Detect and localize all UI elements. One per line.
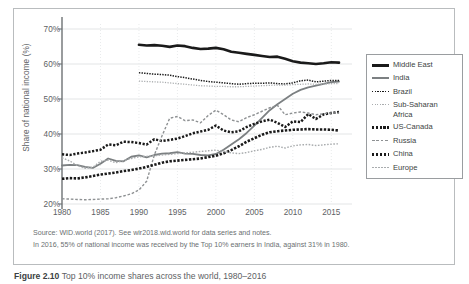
legend-label: Brazil bbox=[393, 87, 412, 96]
legend-swatch-icon bbox=[372, 60, 389, 70]
series-line bbox=[62, 82, 339, 168]
series-line bbox=[139, 45, 339, 64]
series-line bbox=[62, 105, 339, 200]
gridlines bbox=[62, 24, 352, 204]
x-tick-label: 1990 bbox=[119, 208, 159, 217]
legend-label: Sub-Saharan Africa bbox=[393, 100, 458, 119]
x-axis-tick-labels: 19801985199019952000200520102015 bbox=[14, 208, 456, 224]
x-tick-label: 2005 bbox=[234, 208, 274, 217]
legend-label: China bbox=[393, 149, 413, 158]
x-tick-label: 2010 bbox=[273, 208, 313, 217]
source-note: Source: WID.world (2017). See wir2018.wi… bbox=[33, 227, 433, 239]
x-tick-label: 1980 bbox=[42, 208, 82, 217]
legend-swatch-icon bbox=[372, 73, 389, 83]
legend-swatch-icon bbox=[372, 87, 389, 97]
legend-label: India bbox=[393, 73, 409, 82]
data-series-group bbox=[62, 45, 339, 200]
series-line bbox=[139, 81, 339, 87]
figure-notes: Source: WID.world (2017). See wir2018.wi… bbox=[33, 227, 433, 251]
legend-item[interactable]: Europe bbox=[372, 163, 458, 173]
x-tick-label: 2015 bbox=[311, 208, 351, 217]
legend-label: Middle East bbox=[393, 60, 433, 69]
legend-label: Europe bbox=[393, 163, 418, 172]
legend-item[interactable]: Russia bbox=[372, 136, 458, 146]
reading-note: In 2016, 55% of national income was rece… bbox=[33, 239, 433, 251]
legend-swatch-icon bbox=[372, 100, 389, 110]
legend-label: Russia bbox=[393, 136, 416, 145]
legend-item[interactable]: Middle East bbox=[372, 60, 458, 70]
legend-item[interactable]: Sub-Saharan Africa bbox=[372, 100, 458, 119]
legend-item[interactable]: China bbox=[372, 149, 458, 159]
chart-legend: Middle EastIndiaBrazilSub-Saharan Africa… bbox=[366, 54, 463, 179]
x-tick-label: 2000 bbox=[196, 208, 236, 217]
legend-swatch-icon bbox=[372, 149, 389, 159]
legend-label: US-Canada bbox=[393, 122, 433, 131]
legend-swatch-icon bbox=[372, 163, 389, 173]
x-tick-label: 1995 bbox=[157, 208, 197, 217]
caption-text: Top 10% income shares across the world, … bbox=[62, 271, 266, 281]
legend-item[interactable]: Brazil bbox=[372, 87, 458, 97]
legend-swatch-icon bbox=[372, 136, 389, 146]
legend-item[interactable]: US-Canada bbox=[372, 122, 458, 132]
figure-caption: Figure 2.10 Top 10% income shares across… bbox=[14, 271, 266, 281]
legend-item[interactable]: India bbox=[372, 73, 458, 83]
series-line bbox=[62, 129, 339, 179]
series-line bbox=[62, 112, 339, 155]
legend-swatch-icon bbox=[372, 122, 389, 132]
series-line bbox=[139, 73, 339, 85]
figure-frame: Share of national income (%) 20%30%40%50… bbox=[13, 8, 455, 265]
x-tick-label: 1985 bbox=[80, 208, 120, 217]
caption-number: Figure 2.10 bbox=[14, 271, 59, 281]
